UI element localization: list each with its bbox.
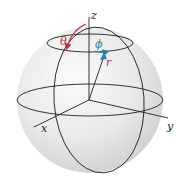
sphere-diagram: z y x θ ϕ r [0, 0, 185, 183]
z-axis-label: z [90, 9, 97, 22]
y-axis-label: y [166, 120, 174, 133]
r-label: r [106, 56, 112, 69]
x-axis-label: x [41, 122, 48, 135]
phi-label: ϕ [95, 38, 103, 51]
theta-label: θ [60, 35, 67, 48]
